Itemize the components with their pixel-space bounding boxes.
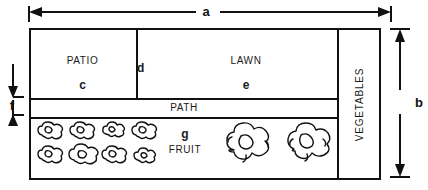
zone-label-vegetables-text: VEGETABLES <box>354 67 365 140</box>
arrowhead-left <box>29 7 42 17</box>
zone-label-lawn: LAWN <box>155 56 337 66</box>
large-shrub-icon <box>288 123 330 161</box>
dimension-line-b <box>386 22 414 188</box>
zone-label-vegetables: VEGETABLES <box>338 29 381 179</box>
arrowhead-top <box>395 29 405 42</box>
small-bush-icon <box>38 146 63 163</box>
dimension-label-f: f <box>5 99 19 112</box>
small-bush-icon <box>69 144 98 164</box>
zone-label-patio: PATIO <box>29 56 136 66</box>
dimension-line-f <box>4 62 28 130</box>
divider-path-top-edge <box>30 98 338 100</box>
large-shrub-icon <box>227 123 269 162</box>
area-letter-e: e <box>155 79 337 91</box>
dimension-label-b: b <box>412 96 426 109</box>
arrowhead-bottom <box>395 164 405 177</box>
dimension-label-a: a <box>199 5 213 18</box>
small-bush-icon <box>70 122 95 139</box>
small-bush-icon <box>103 122 125 137</box>
area-letter-d: d <box>137 62 153 74</box>
planting-symbol-layer <box>29 117 338 180</box>
small-bush-icon <box>38 122 63 139</box>
garden-plan-diagram: PATIO c d LAWN e PATH g FRUIT VEGETABLES <box>0 0 428 190</box>
small-bush-icon <box>134 148 156 163</box>
zone-label-path: PATH <box>30 103 338 113</box>
small-bush-icon <box>102 146 127 163</box>
arrowhead-right <box>378 7 391 17</box>
area-letter-c: c <box>29 79 136 91</box>
small-bush-icon <box>132 122 157 139</box>
